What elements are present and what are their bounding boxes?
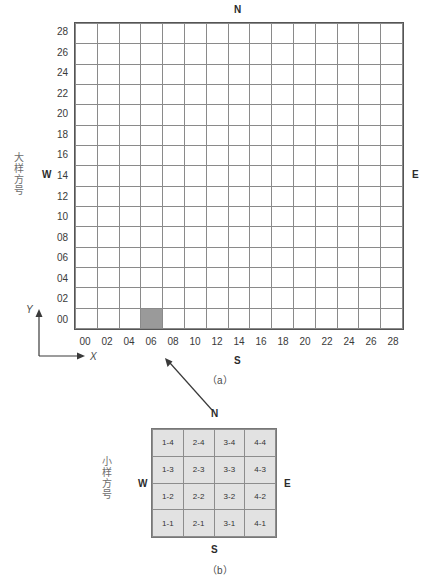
- panel-a-grid-cell: [293, 227, 315, 247]
- panel-a-grid-cell: [228, 105, 250, 125]
- panel-a-y-tick: 22: [48, 88, 68, 99]
- panel-a-grid-cell: [293, 44, 315, 64]
- panel-a-grid-cell: [359, 24, 381, 44]
- panel-a-grid-cell: [315, 24, 337, 44]
- panel-b-compass-south: S: [211, 545, 218, 555]
- panel-a-grid-cell: [337, 44, 359, 64]
- panel-a-grid-cell: [337, 186, 359, 206]
- panel-a-y-tick: 06: [48, 252, 68, 263]
- panel-a-grid-cell: [359, 125, 381, 145]
- panel-a-axis-label-cn: 大样方号: [10, 152, 25, 196]
- panel-a-grid-cell: [250, 227, 272, 247]
- panel-a-grid-cell: [141, 64, 163, 84]
- panel-a-grid-cell: [381, 227, 403, 247]
- panel-a-grid-cell: [381, 105, 403, 125]
- panel-a-grid-cell: [293, 308, 315, 328]
- panel-a-grid-cell: [359, 186, 381, 206]
- panel-a-grid-cell: [337, 24, 359, 44]
- panel-a-grid-cell: [97, 267, 119, 287]
- panel-a-grid-cell: [76, 247, 98, 267]
- panel-a-grid-cell: [359, 64, 381, 84]
- panel-a-grid-cell: [359, 267, 381, 287]
- panel-a-grid-cell: [359, 44, 381, 64]
- panel-a-grid-cell: [272, 288, 294, 308]
- panel-a-grid-cell: [163, 105, 185, 125]
- panel-a-grid-cell: [163, 206, 185, 226]
- panel-a-y-tick: 24: [48, 67, 68, 78]
- panel-a-grid-cell: [141, 206, 163, 226]
- panel-a-grid-cell: [315, 227, 337, 247]
- panel-a-x-tick: 24: [338, 336, 360, 347]
- panel-a-grid-cell: [315, 105, 337, 125]
- panel-a-grid-cell: [337, 145, 359, 165]
- panel-a-grid-cell: [272, 145, 294, 165]
- panel-a-grid-cell: [97, 64, 119, 84]
- panel-a-grid-cell: [293, 84, 315, 104]
- panel-a-grid-cell: [76, 44, 98, 64]
- panel-a-grid-cell: [272, 44, 294, 64]
- panel-a-y-tick: 12: [48, 191, 68, 202]
- panel-a-grid-cell: [206, 44, 228, 64]
- panel-a-grid-cell: [184, 105, 206, 125]
- panel-b-grid-row: 1-42-43-44-4: [153, 430, 276, 457]
- panel-a-y-tick: 18: [48, 129, 68, 140]
- panel-a-grid-cell: [381, 247, 403, 267]
- panel-a-grid-row: [76, 186, 403, 206]
- panel-a-grid-cell: [293, 64, 315, 84]
- panel-a-grid-cell: [250, 166, 272, 186]
- panel-a-x-tick: 28: [382, 336, 404, 347]
- panel-a-grid-cell: [228, 24, 250, 44]
- panel-a-grid-cell: [184, 125, 206, 145]
- panel-a-grid-cell: [315, 247, 337, 267]
- panel-a-y-tick: 04: [48, 273, 68, 284]
- panel-a-grid-cell: [141, 84, 163, 104]
- panel-a-grid-cell: [119, 267, 141, 287]
- panel-a-grid-cell: [184, 24, 206, 44]
- panel-a-grid-cell: [228, 288, 250, 308]
- panel-a-grid-cell: [163, 44, 185, 64]
- panel-a-x-tick: 18: [272, 336, 294, 347]
- panel-a-x-tick: 08: [162, 336, 184, 347]
- panel-a-grid-cell: [250, 186, 272, 206]
- panel-a-grid-cell: [272, 166, 294, 186]
- panel-a-grid-cell: [184, 267, 206, 287]
- panel-a-grid-cell: [337, 166, 359, 186]
- panel-a-grid-cell: [293, 24, 315, 44]
- panel-a-grid-row: [76, 166, 403, 186]
- panel-a-grid-cell: [163, 24, 185, 44]
- panel-a-y-tick: 08: [48, 232, 68, 243]
- panel-a-grid-row: [76, 64, 403, 84]
- panel-a-grid-cell: [206, 145, 228, 165]
- panel-a-grid-row: [76, 206, 403, 226]
- panel-a-grid-cell: [184, 186, 206, 206]
- panel-a-grid-cell: [141, 105, 163, 125]
- panel-a-x-tick: 12: [206, 336, 228, 347]
- panel-a-grid-cell: [163, 186, 185, 206]
- panel-b-compass-north: N: [211, 409, 218, 419]
- panel-a-grid-cell: [163, 267, 185, 287]
- panel-a-grid-cell: [250, 125, 272, 145]
- panel-a-grid-cell: [381, 186, 403, 206]
- panel-a-grid-cell: [163, 288, 185, 308]
- panel-a-x-arrow-label: X: [90, 352, 97, 362]
- panel-a-grid-cell: [184, 227, 206, 247]
- panel-a-grid-cell: [97, 125, 119, 145]
- panel-a-grid-cell: [163, 308, 185, 328]
- panel-a-grid-cell: [381, 145, 403, 165]
- panel-a-grid-cell: [206, 186, 228, 206]
- panel-a-y-tick: 10: [48, 211, 68, 222]
- panel-a-grid-cell: [293, 206, 315, 226]
- panel-a-grid-cell: [359, 166, 381, 186]
- panel-a-grid-cell: [119, 84, 141, 104]
- panel-a-grid-cell: [97, 227, 119, 247]
- panel-a-grid-cell: [97, 145, 119, 165]
- panel-a-grid-cell: [337, 308, 359, 328]
- panel-a-grid-cell: [163, 64, 185, 84]
- panel-a-grid-cell: [141, 125, 163, 145]
- panel-b-grid-cell: 2-1: [183, 510, 214, 537]
- panel-a-grid-cell: [315, 267, 337, 287]
- panel-a-grid-cell: [206, 267, 228, 287]
- panel-a-grid-cell: [381, 267, 403, 287]
- panel-a-grid-cell: [141, 145, 163, 165]
- panel-a-grid-cell: [163, 125, 185, 145]
